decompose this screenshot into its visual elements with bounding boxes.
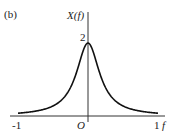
x-tick-label-neg1: -1	[12, 119, 21, 131]
chart: (b) X(f) f 2 -1 O 1	[0, 0, 175, 138]
x-axis-label: f	[162, 119, 167, 131]
x-tick-label-1: 1	[154, 119, 160, 131]
y-tick-label: 2	[80, 31, 86, 43]
y-axis-label: X(f)	[66, 9, 84, 22]
panel-label: (b)	[4, 8, 17, 21]
origin-label: O	[77, 119, 85, 131]
